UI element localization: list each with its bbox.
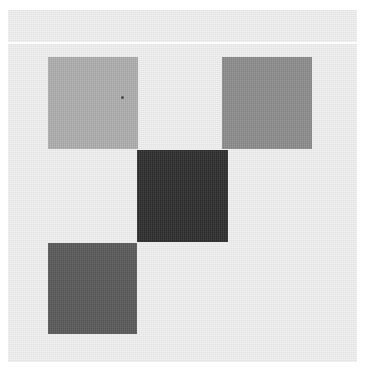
white-rule-separator <box>8 42 357 44</box>
tile-bottom-left <box>48 243 137 334</box>
tile-center <box>137 150 228 242</box>
dark-speck-artifact <box>121 96 124 99</box>
tile-top-right <box>222 57 312 149</box>
artboard <box>0 0 374 370</box>
tile-top-left <box>48 57 138 149</box>
